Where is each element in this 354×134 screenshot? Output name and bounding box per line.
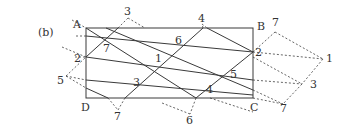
- reflection-point-label: 7: [272, 16, 279, 29]
- dashed-reflection-segment: [253, 52, 323, 59]
- reflection-point-label: 7: [114, 110, 121, 123]
- interior-intersection-label: 3: [133, 76, 140, 89]
- dashed-reflection-segment: [118, 18, 128, 28]
- solid-path-segment: [86, 57, 253, 80]
- reflection-point-label: 6: [186, 114, 193, 127]
- corner-label-d: D: [81, 101, 90, 114]
- reflection-point-label: 3: [124, 5, 131, 18]
- interior-intersection-label: 4: [206, 83, 213, 96]
- dashed-reflection-segment: [253, 80, 302, 84]
- interior-intersection-label: 7: [103, 42, 110, 55]
- reflection-point-label: 1: [326, 52, 333, 65]
- reflection-point-label: 7: [280, 102, 287, 115]
- interior-intersection-label: 1: [155, 52, 162, 65]
- corner-label-b: B: [257, 20, 265, 33]
- reflection-point-label: 3: [310, 78, 317, 91]
- edge-point-label: 2: [255, 46, 262, 59]
- dashed-reflection-segment: [66, 76, 86, 88]
- dashed-reflection-lines: [62, 18, 323, 114]
- interior-labels: 761354: [103, 34, 237, 96]
- edge-point-label: 2: [74, 52, 81, 65]
- dashed-reflection-segment: [66, 76, 86, 80]
- solid-path-segment: [196, 52, 253, 98]
- dashed-reflection-segment: [190, 98, 196, 114]
- billiard-reflection-diagram: (b) A B C D 761354 22 347137675: [0, 0, 354, 134]
- reflection-point-label: 4: [198, 12, 205, 25]
- dashed-reflection-segment: [128, 18, 145, 28]
- dashed-reflection-segment: [118, 98, 125, 110]
- solid-path-segment: [86, 80, 253, 95]
- corner-label-a: A: [72, 18, 82, 31]
- dashed-reflection-segment: [108, 98, 118, 110]
- interior-intersection-label: 6: [175, 34, 182, 47]
- solid-path-segment: [86, 28, 118, 57]
- dashed-reflection-segment: [162, 103, 190, 114]
- dashed-reflection-segment: [253, 57, 302, 84]
- panel-label: (b): [38, 26, 54, 39]
- solid-path-segment: [86, 88, 108, 98]
- interior-intersection-label: 5: [230, 68, 237, 81]
- dashed-reflection-segment: [210, 98, 253, 112]
- reflection-point-label: 5: [57, 74, 64, 87]
- dashed-reflection-segment: [283, 84, 302, 104]
- corner-label-c: C: [250, 101, 258, 114]
- solid-path-lines: [86, 28, 253, 98]
